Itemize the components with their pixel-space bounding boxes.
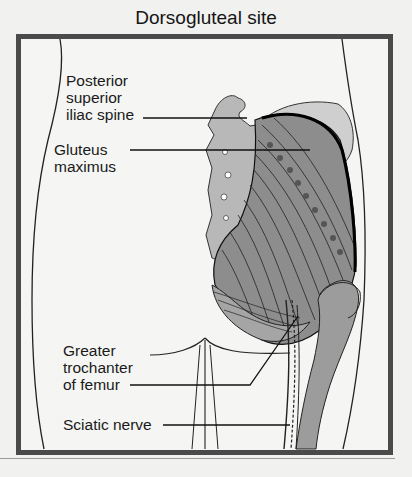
body-outline-left — [32, 39, 62, 449]
bottom-rule — [0, 458, 395, 459]
label-sciatic-nerve: Sciatic nerve — [63, 416, 152, 433]
label-posterior-superior-iliac-spine: Posterior superior iliac spine — [66, 72, 134, 123]
dorsogluteal-anatomy-illustration — [0, 0, 412, 477]
label-gluteus-maximus: Gluteus maximus — [54, 141, 116, 175]
gluteal-fold-left — [150, 338, 205, 355]
label-greater-trochanter-of-femur: Greater trochanter of femur — [63, 342, 133, 393]
